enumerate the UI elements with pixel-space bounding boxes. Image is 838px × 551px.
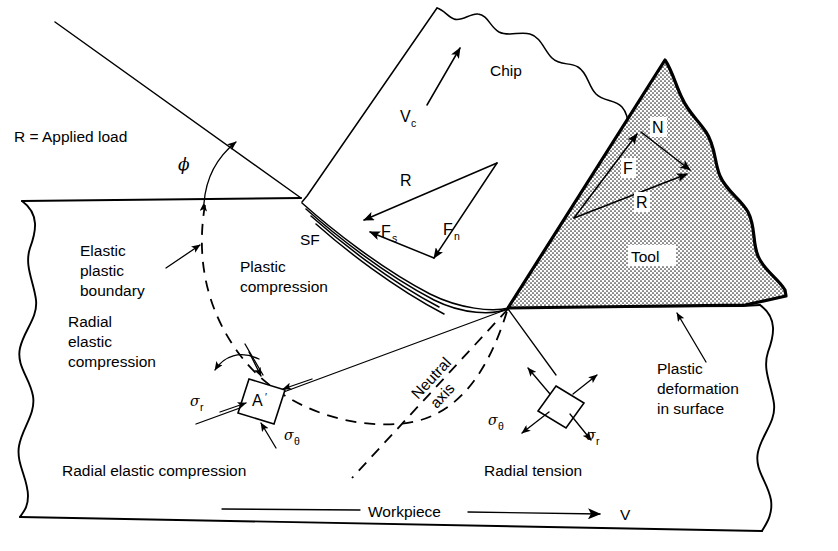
chip-force-triangle xyxy=(364,163,497,258)
chip-force-fn-label: F n xyxy=(443,221,460,242)
svg-text:σ: σ xyxy=(586,427,596,443)
sigma-theta-right-label: σ θ xyxy=(488,412,504,432)
tool-force-n-label: N xyxy=(650,117,667,137)
vc-subscript: c xyxy=(411,117,416,129)
tool-force-f-label: F xyxy=(621,158,636,178)
radial-elastic-compression-stack-label: Radial elastic compression xyxy=(68,313,156,370)
diagram-canvas: R = Applied load ϕ Chip V c R F s F n SF… xyxy=(0,0,838,551)
metal-cutting-diagram: R = Applied load ϕ Chip V c R F s F n SF… xyxy=(0,0,838,551)
svg-text:Radial: Radial xyxy=(68,313,112,330)
tool-force-r-label: R xyxy=(634,192,650,212)
svg-text:compression: compression xyxy=(240,278,328,295)
fn-subscript: n xyxy=(454,230,460,242)
applied-load-label: R = Applied load xyxy=(14,128,127,145)
svg-text:Elastic: Elastic xyxy=(80,242,126,259)
svg-text:θ: θ xyxy=(498,420,504,432)
fn-main: F xyxy=(443,221,453,238)
tool-body xyxy=(508,60,786,308)
workpiece-velocity-label: V xyxy=(620,506,631,523)
svg-text:F: F xyxy=(623,160,633,177)
svg-text:Tool: Tool xyxy=(631,248,659,265)
svg-text:′: ′ xyxy=(265,391,267,403)
elastic-plastic-boundary-pointer xyxy=(166,245,200,268)
plastic-deformation-pointer xyxy=(677,313,706,362)
svg-text:compression: compression xyxy=(68,353,156,370)
radial-line-right xyxy=(508,309,556,375)
svg-text:A: A xyxy=(252,392,263,409)
chip-force-fs-label: F s xyxy=(381,223,397,244)
shear-front-label: SF xyxy=(300,231,320,248)
plastic-deformation-surface-label: Plastic deformation in surface xyxy=(657,360,739,417)
fs-main: F xyxy=(381,223,391,240)
tool-label: Tool xyxy=(628,245,676,266)
svg-text:deformation: deformation xyxy=(657,380,739,397)
svg-text:boundary: boundary xyxy=(80,282,145,299)
svg-text:plastic: plastic xyxy=(80,262,124,279)
svg-text:θ: θ xyxy=(294,435,300,447)
svg-text:elastic: elastic xyxy=(68,333,112,350)
svg-text:in surface: in surface xyxy=(657,400,724,417)
shear-angle-label: ϕ xyxy=(178,154,190,174)
radial-elastic-compression-line-label: Radial elastic compression xyxy=(62,462,246,479)
fs-subscript: s xyxy=(392,232,397,244)
chip-velocity-label: V c xyxy=(400,108,416,129)
sigma-theta-left-label: σ θ xyxy=(284,427,300,447)
elastic-plastic-boundary-label: Elastic plastic boundary xyxy=(80,242,145,299)
shear-angle-arc xyxy=(204,142,236,203)
svg-text:Plastic: Plastic xyxy=(657,360,703,377)
svg-text:σ: σ xyxy=(284,427,294,443)
neutral-axis-line xyxy=(352,309,508,478)
svg-text:σ: σ xyxy=(488,412,498,428)
sigma-r-right-label: σ r xyxy=(586,427,600,447)
chip-label: Chip xyxy=(490,62,522,79)
vc-main: V xyxy=(400,108,411,125)
radial-tension-label: Radial tension xyxy=(484,462,582,479)
svg-text:R: R xyxy=(636,194,648,211)
workpiece-label: Workpiece xyxy=(368,503,441,520)
chip-force-r-label: R xyxy=(400,172,412,189)
svg-text:Plastic: Plastic xyxy=(240,258,286,275)
svg-text:N: N xyxy=(652,119,664,136)
svg-text:r: r xyxy=(200,401,204,413)
stress-element-compression xyxy=(215,344,312,448)
svg-text:r: r xyxy=(596,435,600,447)
plastic-compression-label: Plastic compression xyxy=(240,258,328,295)
svg-text:σ: σ xyxy=(190,393,200,409)
chip-velocity-arrow xyxy=(427,48,460,105)
sigma-r-left-label: σ r xyxy=(190,393,204,413)
